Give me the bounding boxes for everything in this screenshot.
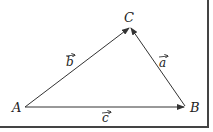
vector-triangle-diagram: A B C b a c: [0, 0, 213, 132]
svg-text:a: a: [159, 56, 166, 70]
svg-text:c: c: [102, 111, 109, 125]
vector-label-a: a: [159, 56, 168, 70]
svg-text:b: b: [66, 55, 74, 69]
vector-a-arrow: [131, 28, 185, 106]
vector-label-c: c: [102, 111, 111, 125]
point-label-b: B: [189, 100, 200, 115]
vector-label-b: b: [66, 55, 75, 69]
point-label-a: A: [11, 100, 21, 115]
vector-b-arrow: [25, 28, 129, 107]
point-label-c: C: [124, 10, 134, 25]
